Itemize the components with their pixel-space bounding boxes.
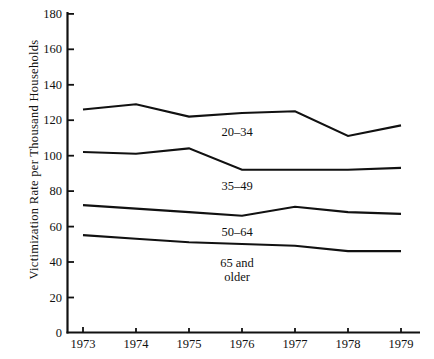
x-tick-label: 1978: [336, 337, 361, 352]
series-label-50-64: 50–64: [221, 226, 252, 240]
series-label-35-49: 35–49: [221, 180, 252, 194]
axes: [67, 12, 421, 334]
series-label-20-34: 20–34: [221, 126, 252, 140]
x-tick-label: 1974: [124, 337, 149, 352]
line-chart: Victimization Rate per Thousand Househol…: [0, 0, 434, 359]
series-line-35-49: [83, 148, 401, 169]
series-label-65-and-older: 65 and older: [220, 257, 254, 284]
x-tick-label: 1977: [283, 337, 308, 352]
series-label-65-line1: 65 and: [220, 257, 254, 271]
series-label-65-line2: older: [220, 271, 254, 285]
x-tick-label: 1979: [389, 337, 414, 352]
plot-area: [0, 0, 434, 359]
x-tick-label: 1973: [71, 337, 96, 352]
x-tick-label: 1975: [177, 337, 202, 352]
series-line-50-64: [83, 205, 401, 216]
x-tick-label: 1976: [230, 337, 255, 352]
